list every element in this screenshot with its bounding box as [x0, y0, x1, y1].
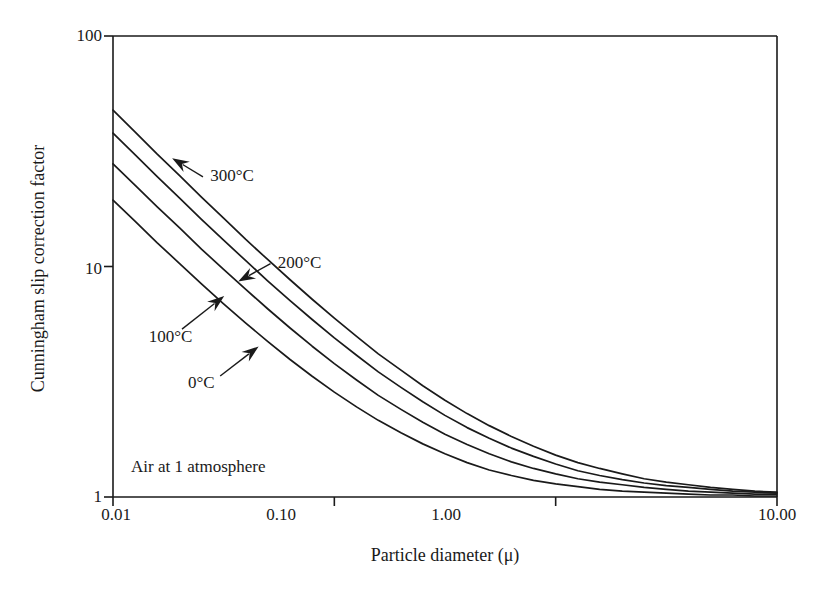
- curve-label-300c: 300°C: [210, 166, 254, 186]
- note-air-at-1-atmosphere: Air at 1 atmosphere: [131, 457, 266, 477]
- curve-100c: [113, 164, 777, 494]
- curve-label-200c: 200°C: [278, 253, 322, 273]
- curve-label-0c: 0°C: [188, 373, 215, 393]
- x-axis-title: Particle diameter (μ): [113, 545, 777, 566]
- y-axis-title: Cunningham slip correction factor: [28, 49, 49, 489]
- y-tick-label-1: 1: [40, 487, 102, 507]
- arrow-shaft-300c: [183, 165, 203, 177]
- y-tick-label-100: 100: [40, 26, 102, 46]
- y-tick-label-10: 10: [40, 259, 102, 279]
- x-tick-label-10-00: 10.00: [737, 505, 817, 525]
- x-tick-label-0-01: 0.01: [76, 505, 156, 525]
- arrow-head-0c: [242, 346, 259, 361]
- arrow-head-100c: [207, 296, 224, 311]
- arrow-shaft-0c: [220, 354, 249, 376]
- axes-group: [104, 36, 777, 506]
- curve-200c: [113, 133, 777, 493]
- x-tick-label-0-10: 0.10: [241, 505, 321, 525]
- arrow-head-200c: [238, 268, 256, 282]
- curve-0c: [113, 200, 777, 496]
- arrow-shaft-100c: [182, 304, 215, 330]
- x-tick-label-1-00: 1.00: [406, 505, 486, 525]
- chart-figure: 100 10 1 0.01 0.10 1.00 10.00 Cunningham…: [0, 0, 832, 593]
- curve-label-100c: 100°C: [149, 327, 193, 347]
